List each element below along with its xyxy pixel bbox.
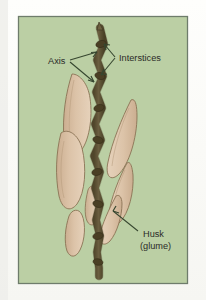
scan-edge-shadow	[0, 0, 8, 300]
label-axis: Axis	[48, 56, 66, 66]
label-husk: Husk	[143, 229, 164, 239]
label-interstices: Interstices	[119, 53, 161, 63]
figure-root: Axis Interstices Husk (glume)	[0, 0, 206, 300]
spikelet-diagram: Axis Interstices Husk (glume)	[0, 0, 206, 300]
label-glume: (glume)	[140, 241, 171, 251]
